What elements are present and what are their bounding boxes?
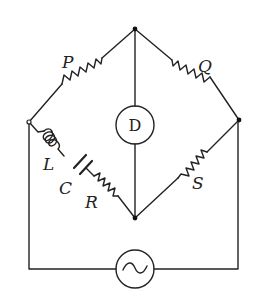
- source-wire-right: [154, 120, 238, 269]
- node-right: [237, 118, 242, 123]
- label-q: Q: [198, 56, 212, 76]
- label-c: C: [59, 178, 72, 198]
- node-top: [133, 27, 138, 32]
- resistor-p: [29, 29, 135, 122]
- sine-wave-icon: [123, 263, 147, 273]
- label-r: R: [84, 192, 98, 212]
- label-l: L: [42, 154, 54, 174]
- detector-label: D: [129, 116, 142, 135]
- node-left: [27, 120, 31, 124]
- inductor-l: [29, 122, 64, 156]
- label-s: S: [192, 173, 204, 193]
- resistor-q: [135, 29, 239, 120]
- label-p: P: [61, 52, 74, 72]
- bridge-circuit: P Q D S L C R: [0, 0, 262, 306]
- node-bottom: [133, 216, 138, 221]
- source-wire-left: [29, 122, 116, 269]
